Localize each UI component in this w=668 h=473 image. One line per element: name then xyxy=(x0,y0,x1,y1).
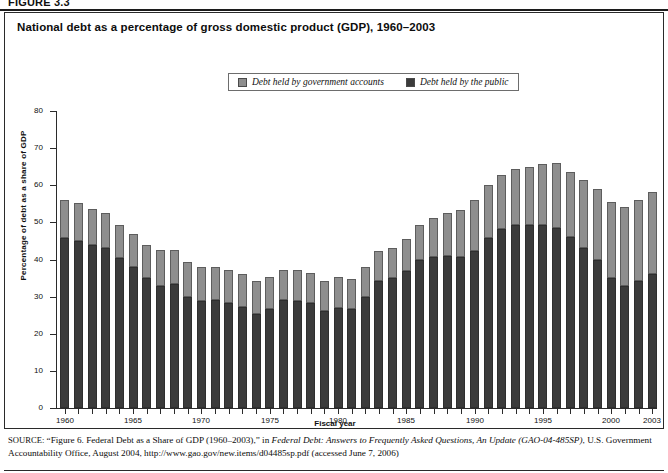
bar-segment-government-accounts xyxy=(429,218,438,257)
source-prefix: SOURCE: xyxy=(8,435,44,445)
bar-column xyxy=(429,111,438,408)
x-axis-tick xyxy=(447,409,448,414)
bar-segment-public xyxy=(115,258,124,408)
x-axis-tick xyxy=(557,409,558,414)
bar-column xyxy=(252,111,261,408)
bar-segment-public xyxy=(183,297,192,408)
bar-segment-public xyxy=(429,257,438,408)
bar-segment-government-accounts xyxy=(607,202,616,278)
bar-segment-government-accounts xyxy=(265,277,274,309)
bar-segment-government-accounts xyxy=(347,279,356,309)
y-axis-tick xyxy=(50,408,56,409)
x-axis-tick xyxy=(160,409,161,414)
y-axis-tick-label: 30 xyxy=(17,293,43,301)
bar-column xyxy=(415,111,424,408)
bar-segment-government-accounts xyxy=(374,251,383,281)
bar-segment-government-accounts xyxy=(484,185,493,238)
bar-column xyxy=(306,111,315,408)
bar-segment-government-accounts xyxy=(197,267,206,302)
bar-segment-government-accounts xyxy=(279,270,288,301)
x-axis-tick xyxy=(461,409,462,414)
bar-segment-government-accounts xyxy=(129,234,138,267)
bar-column xyxy=(361,111,370,408)
bar-segment-public xyxy=(238,307,247,408)
y-axis-tick-label: 80 xyxy=(17,107,43,115)
x-axis-tick-label: 2003 xyxy=(632,416,668,425)
x-axis-tick xyxy=(639,409,640,414)
bar-segment-government-accounts xyxy=(634,200,643,281)
bar-segment-public xyxy=(593,260,602,408)
bar-segment-public xyxy=(443,256,452,408)
bar-segment-government-accounts xyxy=(183,262,192,297)
y-axis-tick-label: 20 xyxy=(17,330,43,338)
bar-column xyxy=(279,111,288,408)
bar-segment-government-accounts xyxy=(211,267,220,300)
bar-column xyxy=(224,111,233,408)
x-axis-tick-label: 1995 xyxy=(523,416,563,425)
bar-segment-government-accounts xyxy=(552,163,561,228)
bar-column xyxy=(211,111,220,408)
bar-column xyxy=(293,111,302,408)
x-axis-tick xyxy=(324,409,325,414)
bar-segment-public xyxy=(101,248,110,408)
x-axis-tick-label: 1980 xyxy=(318,416,358,425)
x-axis-tick xyxy=(598,409,599,414)
x-axis-tick-label: 1965 xyxy=(113,416,153,425)
bar-column xyxy=(648,111,657,408)
x-axis-tick xyxy=(78,409,79,414)
bar-segment-public xyxy=(60,238,69,408)
bar-segment-public xyxy=(415,260,424,408)
x-axis-tick-label: 1970 xyxy=(181,416,221,425)
source-note: SOURCE: “Figure 6. Federal Debt as a Sha… xyxy=(8,434,660,460)
x-axis-tick xyxy=(229,409,230,414)
bar-segment-government-accounts xyxy=(224,270,233,302)
x-axis-tick xyxy=(338,409,339,414)
x-axis-tick xyxy=(475,409,476,414)
bar-segment-public xyxy=(361,297,370,408)
bar-segment-public xyxy=(402,271,411,408)
x-axis-tick xyxy=(406,409,407,414)
bar-segment-government-accounts xyxy=(334,277,343,307)
bar-segment-government-accounts xyxy=(320,281,329,311)
bar-segment-government-accounts xyxy=(579,180,588,248)
x-axis-tick-label: 1960 xyxy=(45,416,85,425)
x-axis-tick xyxy=(516,409,517,414)
y-axis-tick-label: 70 xyxy=(17,144,43,152)
bar-segment-public xyxy=(470,251,479,408)
bar-column xyxy=(197,111,206,408)
bar-column xyxy=(115,111,124,408)
bar-segment-public xyxy=(607,278,616,408)
x-axis-tick xyxy=(188,409,189,414)
source-line1-italic: Federal Debt: Answers to Frequently Aske… xyxy=(272,435,583,445)
bar-segment-public xyxy=(552,228,561,408)
bar-column xyxy=(566,111,575,408)
x-axis-tick xyxy=(379,409,380,414)
x-axis-tick xyxy=(543,409,544,414)
figure-label: FIGURE 3.3 xyxy=(8,0,70,8)
x-axis-tick xyxy=(420,409,421,414)
bar-segment-government-accounts xyxy=(402,239,411,271)
x-axis-tick xyxy=(297,409,298,414)
x-axis-tick xyxy=(611,409,612,414)
bar-segment-public xyxy=(170,284,179,408)
bar-segment-public xyxy=(388,278,397,408)
bar-segment-public xyxy=(142,278,151,408)
x-axis-tick-label: 1985 xyxy=(386,416,426,425)
source-bottom-rule xyxy=(4,470,664,471)
bar-column xyxy=(265,111,274,408)
bar-segment-government-accounts xyxy=(60,200,69,239)
bar-segment-public xyxy=(252,314,261,408)
x-axis-tick xyxy=(488,409,489,414)
source-line1-a: “Figure 6. Federal Debt as a Share of GD… xyxy=(44,435,271,445)
x-axis-tick xyxy=(584,409,585,414)
plot-area: Percentage of debt as a share of GDP Fis… xyxy=(5,13,665,430)
bar-column xyxy=(320,111,329,408)
bar-segment-government-accounts xyxy=(74,203,83,240)
bar-segment-public xyxy=(538,225,547,408)
bar-segment-public xyxy=(279,300,288,408)
x-axis-tick xyxy=(393,409,394,414)
bar-segment-government-accounts xyxy=(538,164,547,225)
y-axis-tick-label: 0 xyxy=(17,404,43,412)
bar-segment-public xyxy=(265,309,274,408)
bar-segment-government-accounts xyxy=(648,192,657,274)
